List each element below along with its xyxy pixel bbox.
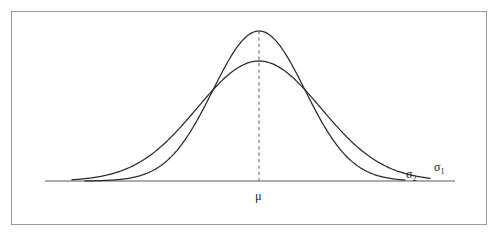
normal-distribution-figure: μ σ2 σ1 [0, 0, 498, 238]
curve-sigma-1-wide [72, 61, 430, 180]
distribution-plot-canvas [0, 0, 498, 238]
sigma-2-subscript: 2 [412, 174, 416, 183]
curve-sigma-2-narrow [85, 31, 405, 181]
sigma-1-label: σ1 [434, 161, 444, 176]
sigma-2-label: σ2 [406, 168, 416, 183]
sigma-1-subscript: 1 [440, 167, 444, 176]
mean-label: μ [255, 190, 262, 203]
